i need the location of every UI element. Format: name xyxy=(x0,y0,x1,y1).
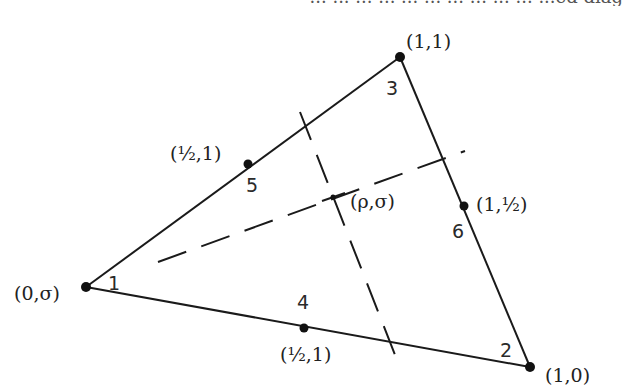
edge-1-3 xyxy=(86,57,400,287)
midpoint-4-node xyxy=(300,324,309,333)
dashed-line-vertical xyxy=(300,112,397,360)
vertex-2-label: (1,0) xyxy=(545,364,590,386)
interior-point-label: (ρ,σ) xyxy=(350,190,395,212)
vertex-1-number: 1 xyxy=(108,272,120,294)
interior-point xyxy=(331,195,336,200)
vertex-2-node xyxy=(525,362,535,372)
midpoint-6-number: 6 xyxy=(452,220,464,242)
vertex-3-number: 3 xyxy=(386,77,398,99)
midpoint-4-label: (½,1) xyxy=(280,343,331,365)
midpoint-6-node xyxy=(460,202,469,211)
cropped-text-line: ... ... ... ... ... ... ... ... ... ... … xyxy=(0,0,623,6)
midpoint-4-number: 4 xyxy=(297,291,309,313)
midpoint-6-label: (1,½) xyxy=(476,193,527,215)
vertex-3-node xyxy=(395,52,405,62)
triangle-diagram: (0,σ) (1,0) (1,1) (½,1) (½,1) (1,½) (ρ,σ… xyxy=(0,0,623,392)
midpoint-5-number: 5 xyxy=(246,174,258,196)
vertex-2-number: 2 xyxy=(500,339,512,361)
diagram-canvas: ... ... ... ... ... ... ... ... ... ... … xyxy=(0,0,623,392)
vertex-3-label: (1,1) xyxy=(406,30,451,52)
dashed-line-horizontal xyxy=(158,151,465,262)
vertex-1-label: (0,σ) xyxy=(14,282,60,304)
vertex-1-node xyxy=(81,282,91,292)
midpoint-5-node xyxy=(244,160,253,169)
midpoint-5-label: (½,1) xyxy=(170,142,221,164)
